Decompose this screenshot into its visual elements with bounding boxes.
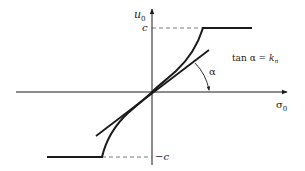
angle-arc bbox=[195, 63, 209, 90]
y-axis-label: u0 bbox=[134, 8, 146, 23]
equation-label: tan α = kn bbox=[232, 53, 278, 64]
upper-level-label: c bbox=[142, 22, 148, 33]
lower-level-label: −c bbox=[155, 151, 169, 162]
diagram-canvas: u0 c −c tan α = kn α σ0 bbox=[0, 0, 305, 171]
x-axis-label: σ0 bbox=[276, 99, 287, 113]
angle-label: α bbox=[209, 66, 216, 77]
